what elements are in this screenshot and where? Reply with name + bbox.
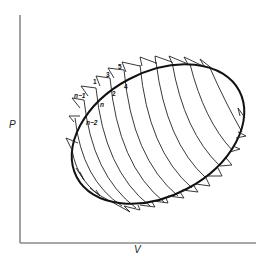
y-axis-label: P [9,119,16,130]
step-label-n: n [100,101,104,108]
step-label-n-minus-1: n−1 [74,92,86,99]
tooth [69,116,80,122]
x-axis-label: V [134,244,142,255]
tooth [140,57,156,66]
step-labels: 1 2 3 4 5 n−1 n n−2 [74,63,128,126]
curve-10 [190,64,232,150]
pv-diagram: P V [0,0,266,258]
step-label-5: 5 [118,63,122,70]
curve-8 [156,62,206,178]
tooth [200,59,214,70]
step-label-n-minus-2: n−2 [86,119,98,126]
step-label-1: 1 [93,78,97,85]
tooth [124,205,140,210]
curve-family [72,62,242,208]
curve-7 [140,65,192,188]
step-label-3: 3 [106,71,110,78]
axes: P V [9,15,256,255]
tooth [122,62,140,72]
step-label-4: 4 [124,83,128,90]
curve-6 [124,70,178,196]
curve-11 [210,68,242,132]
curve-9 [172,62,220,166]
step-label-2: 2 [112,90,116,97]
tooth [72,98,84,108]
curve-5 [110,78,164,202]
